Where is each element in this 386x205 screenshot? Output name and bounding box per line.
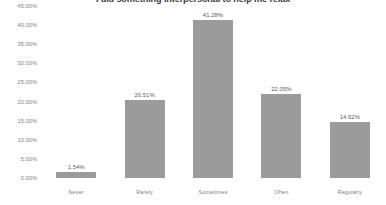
y-axis-tick-label: 5.00% <box>21 156 37 162</box>
x-axis-tick-label: Never <box>42 189 110 195</box>
chart-title: I did something interpersonal to help me… <box>0 0 386 5</box>
y-axis: 0.00%5.00%10.00%15.00%20.00%25.00%30.00%… <box>0 0 42 205</box>
x-axis-tick-label: Rarely <box>110 189 178 195</box>
x-axis-tick-label: Regularly <box>316 189 384 195</box>
x-axis-tick-label: Sometimes <box>179 189 247 195</box>
bar-rarely[interactable] <box>125 100 165 178</box>
bar-group: 41.28% <box>193 6 233 178</box>
bar-group: 22.05% <box>261 6 301 178</box>
y-axis-tick-label: 25.00% <box>17 79 37 85</box>
y-axis-tick-label: 20.00% <box>17 99 37 105</box>
bar-value-label: 20.51% <box>125 92 165 98</box>
y-axis-tick-label: 15.00% <box>17 118 37 124</box>
y-axis-tick-label: 40.00% <box>17 22 37 28</box>
y-axis-tick-label: 30.00% <box>17 60 37 66</box>
bar-group: 20.51% <box>125 6 165 178</box>
bar-group: 14.62% <box>330 6 370 178</box>
bar-value-label: 14.62% <box>330 114 370 120</box>
bar-regularly[interactable] <box>330 122 370 178</box>
bar-sometimes[interactable] <box>193 20 233 178</box>
bar-never[interactable] <box>56 172 96 178</box>
bar-value-label: 41.28% <box>193 12 233 18</box>
y-axis-tick-label: 45.00% <box>17 3 37 9</box>
bar-chart: I did something interpersonal to help me… <box>0 0 386 205</box>
plot-area: 1.54%20.51%41.28%22.05%14.62% <box>42 6 384 178</box>
bar-value-label: 22.05% <box>261 86 301 92</box>
bar-value-label: 1.54% <box>56 164 96 170</box>
y-axis-tick-label: 10.00% <box>17 137 37 143</box>
y-axis-tick-label: 0.00% <box>21 175 37 181</box>
x-axis-tick-label: Often <box>247 189 315 195</box>
y-axis-tick-label: 35.00% <box>17 41 37 47</box>
bar-often[interactable] <box>261 94 301 178</box>
bar-group: 1.54% <box>56 6 96 178</box>
